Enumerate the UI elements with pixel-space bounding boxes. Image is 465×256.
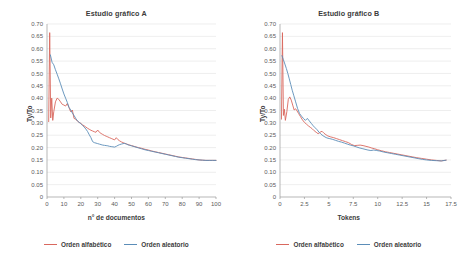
svg-text:0: 0: [40, 194, 44, 200]
legend-item-alfabetico-b[interactable]: Orden alfabético: [276, 241, 343, 248]
legend-label: Orden alfabético: [61, 241, 111, 248]
svg-text:0: 0: [45, 201, 49, 207]
legend-item-alfabetico-a[interactable]: Orden alfabético: [44, 241, 111, 248]
svg-text:0.55: 0.55: [31, 58, 43, 64]
svg-text:0: 0: [272, 194, 276, 200]
svg-text:0.70: 0.70: [264, 21, 276, 27]
svg-text:0.40: 0.40: [31, 95, 43, 101]
svg-text:70: 70: [162, 201, 169, 207]
svg-text:0: 0: [278, 201, 282, 207]
svg-text:0.55: 0.55: [264, 58, 276, 64]
legend-swatch-icon: [357, 244, 370, 246]
x-axis-label-b: Tokens: [233, 214, 465, 221]
svg-text:30: 30: [94, 201, 101, 207]
legend-swatch-icon: [124, 244, 137, 246]
svg-text:0.40: 0.40: [264, 95, 276, 101]
svg-text:0.10: 0.10: [31, 169, 43, 175]
y-axis-label-a: Ty/To: [26, 105, 33, 122]
svg-text:0.70: 0.70: [31, 21, 43, 27]
legend-label: Orden alfabético: [293, 241, 343, 248]
svg-text:0.45: 0.45: [264, 83, 276, 89]
svg-text:40: 40: [111, 201, 118, 207]
svg-text:15: 15: [423, 201, 430, 207]
svg-text:0.65: 0.65: [31, 33, 43, 39]
svg-text:0.60: 0.60: [31, 46, 43, 52]
svg-text:0.20: 0.20: [264, 145, 276, 151]
svg-text:0.25: 0.25: [31, 132, 43, 138]
svg-text:20: 20: [77, 201, 84, 207]
svg-text:60: 60: [145, 201, 152, 207]
svg-text:0.50: 0.50: [31, 71, 43, 77]
svg-text:0.25: 0.25: [264, 132, 276, 138]
svg-text:0.05: 0.05: [264, 182, 276, 188]
svg-text:0.05: 0.05: [31, 182, 43, 188]
svg-text:100: 100: [211, 201, 222, 207]
svg-text:0.15: 0.15: [264, 157, 276, 163]
x-axis-label-a: n° de documentos: [0, 214, 233, 221]
svg-text:80: 80: [179, 201, 186, 207]
svg-text:17.5: 17.5: [445, 201, 457, 207]
svg-text:0.50: 0.50: [264, 71, 276, 77]
chart-panel-a: Estudio gráfico A 00.050.100.150.200.250…: [0, 0, 233, 256]
chart-panel-b: Estudio gráfico B 00.050.100.150.200.250…: [233, 0, 465, 256]
svg-text:10: 10: [61, 201, 68, 207]
svg-text:0.10: 0.10: [264, 169, 276, 175]
svg-text:5: 5: [327, 201, 331, 207]
svg-text:2.5: 2.5: [300, 201, 309, 207]
svg-text:50: 50: [128, 201, 135, 207]
charts-container: Estudio gráfico A 00.050.100.150.200.250…: [0, 0, 465, 256]
legend-item-aleatorio-a[interactable]: Orden aleatorio: [124, 241, 188, 248]
y-axis-label-b: Ty/To: [259, 105, 266, 122]
svg-text:90: 90: [196, 201, 203, 207]
legend-label: Orden aleatorio: [374, 241, 421, 248]
svg-text:0.35: 0.35: [31, 108, 43, 114]
svg-text:0.20: 0.20: [31, 145, 43, 151]
svg-text:0.60: 0.60: [264, 46, 276, 52]
legend-swatch-icon: [44, 244, 57, 246]
legend-a: Orden alfabético Orden aleatorio: [0, 241, 233, 248]
legend-item-aleatorio-b[interactable]: Orden aleatorio: [357, 241, 421, 248]
legend-label: Orden aleatorio: [141, 241, 188, 248]
svg-text:12.5: 12.5: [396, 201, 408, 207]
svg-text:0.15: 0.15: [31, 157, 43, 163]
svg-text:0.30: 0.30: [31, 120, 43, 126]
svg-text:7.5: 7.5: [349, 201, 358, 207]
svg-text:0.65: 0.65: [264, 33, 276, 39]
legend-b: Orden alfabético Orden aleatorio: [233, 241, 465, 248]
svg-text:10: 10: [374, 201, 381, 207]
legend-swatch-icon: [276, 244, 289, 246]
svg-text:0.45: 0.45: [31, 83, 43, 89]
